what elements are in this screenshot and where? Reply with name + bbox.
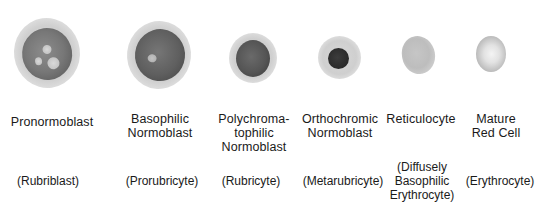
alt-name-line1: (Diffusely [386, 160, 458, 174]
stage-label-orthochromic-normoblast: Orthochromic Normoblast [300, 112, 380, 140]
stage-label-mature-red-cell: Mature Red Cell [466, 112, 526, 140]
polychromatophilic-normoblast-cell-image [229, 33, 277, 83]
stage-name: Pronormoblast [0, 115, 104, 129]
stage-name-line1: Mature [466, 112, 526, 126]
stage-label-basophilic-normoblast: Basophilic Normoblast [120, 112, 200, 140]
stage-label-reticulocyte: Reticulocyte [382, 112, 460, 126]
alt-name-prorubricyte: (Prorubricyte) [118, 174, 206, 188]
mature-red-cell-image [476, 36, 506, 72]
alt-name: (Erythrocyte) [458, 174, 542, 188]
alt-name-line2: Basophilic [386, 174, 458, 188]
polychromatophilic-nucleus [236, 40, 270, 77]
stage-label-polychromatophilic-normoblast: Polychroma- tophilic Normoblast [212, 112, 296, 154]
alt-name-rubriblast: (Rubriblast) [2, 174, 94, 188]
pronormoblast-cell-image [9, 14, 84, 93]
alt-name: (Prorubricyte) [118, 174, 206, 188]
orthochromic-normoblast-cell-image [318, 36, 361, 79]
alt-name-metarubricyte: (Metarubricyte) [298, 174, 388, 188]
stage-name-line2: Red Cell [466, 126, 526, 140]
alt-name: (Rubriblast) [2, 174, 94, 188]
stage-label-pronormoblast: Pronormoblast [0, 115, 104, 129]
alt-name-line3: Erythrocyte) [386, 188, 458, 202]
stage-name: Reticulocyte [382, 112, 460, 126]
alt-name: (Metarubricyte) [298, 174, 388, 188]
stage-name-line1: Orthochromic [300, 112, 380, 126]
stage-name-line1: Basophilic [120, 112, 200, 126]
alt-name-diffusely-basophilic-erythrocyte: (Diffusely Basophilic Erythrocyte) [386, 160, 458, 202]
alt-name: (Rubricyte) [216, 174, 286, 188]
reticulocyte-cell-image [399, 33, 438, 76]
basophilic-normoblast-cell-image [124, 18, 195, 92]
stage-name-line1: Polychroma- [212, 112, 296, 126]
stage-name-line3: Normoblast [212, 140, 296, 154]
alt-name-erythrocyte: (Erythrocyte) [458, 174, 542, 188]
stage-name-line2: Normoblast [120, 126, 200, 140]
stage-name-line2: tophilic [212, 126, 296, 140]
alt-name-rubricyte: (Rubricyte) [216, 174, 286, 188]
orthochromic-nucleus [328, 48, 349, 69]
stage-name-line2: Normoblast [300, 126, 380, 140]
basophilic-nucleus [132, 27, 187, 84]
